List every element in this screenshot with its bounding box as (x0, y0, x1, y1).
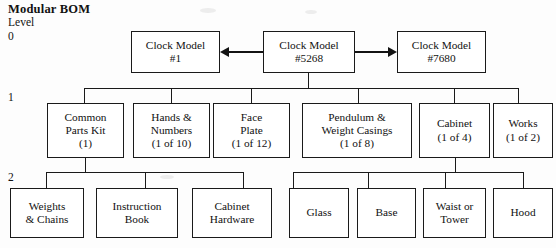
node-line-2: #1 (170, 52, 181, 65)
node-line-1: Clock Model (146, 39, 205, 52)
connector-to-pendulum-weight-casings (358, 88, 359, 103)
node-line-2: Tower (440, 213, 469, 226)
node-line-1: Clock Model (279, 39, 338, 52)
node-common-parts-kit[interactable]: Common Parts Kit (1) (47, 103, 124, 158)
node-line-2: Weight Casings (322, 124, 393, 137)
connector-level2-right-bus (293, 172, 524, 173)
node-line-2: Plate (240, 124, 263, 137)
node-line-1: Instruction (113, 200, 162, 213)
node-line-3: (1 of 12) (232, 137, 272, 150)
connector-to-instruction-book (145, 172, 146, 188)
node-instruction-book[interactable]: Instruction Book (96, 188, 178, 238)
node-line-2: Book (125, 213, 149, 226)
connector-to-face-plate (251, 88, 252, 103)
node-line-1: Waist or (436, 200, 474, 213)
node-cabinet[interactable]: Cabinet (1 of 4) (419, 103, 490, 158)
connector-root-drop (308, 73, 309, 89)
node-face-plate[interactable]: Face Plate (1 of 12) (213, 103, 290, 158)
node-glass[interactable]: Glass (289, 188, 349, 238)
modular-bom-diagram: Modular BOM Level 0 1 2 Clock Model #1 C… (0, 0, 556, 248)
scan-artifact (200, 8, 216, 13)
node-line-2: #5268 (295, 52, 323, 65)
node-line-1: Clock Model (412, 39, 471, 52)
node-line-1: Face (241, 111, 262, 124)
connector-common-parts-kit-drop (85, 158, 86, 173)
node-line-1: Weights (29, 200, 66, 213)
connector-to-hands-numbers (171, 88, 172, 103)
node-clock-model-1[interactable]: Clock Model #1 (131, 31, 220, 73)
node-line-3: (1 of 8) (340, 137, 374, 150)
node-line-1: Hands & (151, 111, 191, 124)
connector-to-base (368, 172, 369, 188)
scan-artifact (305, 10, 317, 14)
node-line-2: (1 of 4) (438, 131, 472, 144)
node-works[interactable]: Works (1 of 2) (493, 103, 553, 158)
connector-to-cabinet-hardware (243, 172, 244, 188)
node-line-1: Pendulum & (328, 111, 385, 124)
arrow-shaft-left (229, 51, 263, 53)
node-line-2: #7680 (427, 52, 455, 65)
node-line-3: (1 of 10) (152, 137, 192, 150)
node-line-1: Cabinet (214, 200, 249, 213)
connector-to-weights-chains (46, 172, 47, 188)
arrow-right-icon (388, 47, 397, 57)
level-label-2: 2 (8, 171, 14, 183)
node-line-1: Base (376, 206, 398, 219)
connector-to-glass (293, 172, 294, 188)
node-pendulum-and-weight-casings[interactable]: Pendulum & Weight Casings (1 of 8) (302, 103, 412, 158)
arrow-left-icon (220, 47, 229, 57)
node-line-1: Cabinet (437, 117, 472, 130)
node-line-1: Common (64, 111, 106, 124)
scan-artifact (160, 175, 174, 179)
connector-to-hood (523, 172, 524, 188)
arrow-shaft-right (355, 51, 388, 53)
node-waist-or-tower[interactable]: Waist or Tower (423, 188, 486, 238)
node-clock-model-5268[interactable]: Clock Model #5268 (263, 31, 355, 73)
node-line-1: Works (508, 117, 537, 130)
node-hood[interactable]: Hood (493, 188, 553, 238)
node-line-2: Parts Kit (66, 124, 106, 137)
level-label-1: 1 (8, 91, 14, 103)
node-line-1: Hood (510, 206, 535, 219)
connector-to-waist-or-tower (445, 172, 446, 188)
node-line-2: Hardware (210, 213, 255, 226)
level-column-header: Level (8, 16, 34, 28)
node-base[interactable]: Base (357, 188, 416, 238)
connector-to-cabinet (454, 88, 455, 103)
node-hands-and-numbers[interactable]: Hands & Numbers (1 of 10) (133, 103, 210, 158)
node-line-3: (1) (79, 137, 92, 150)
node-weights-and-chains[interactable]: Weights & Chains (10, 188, 84, 238)
node-cabinet-hardware[interactable]: Cabinet Hardware (192, 188, 272, 238)
level-label-0: 0 (8, 30, 14, 42)
node-line-1: Glass (306, 206, 331, 219)
page-title: Modular BOM (8, 2, 90, 17)
node-line-2: (1 of 2) (506, 131, 540, 144)
connector-to-common-parts-kit (84, 88, 85, 103)
node-clock-model-7680[interactable]: Clock Model #7680 (397, 31, 486, 73)
node-line-2: Numbers (151, 124, 192, 137)
node-line-2: & Chains (26, 213, 69, 226)
connector-cabinet-drop (455, 158, 456, 173)
connector-to-works (518, 88, 519, 103)
